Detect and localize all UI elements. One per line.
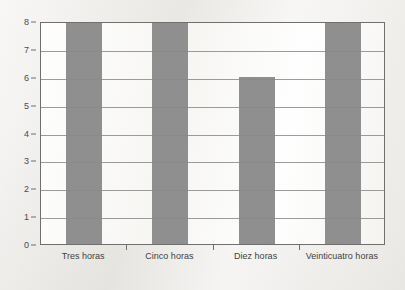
x-category-label: Cinco horas [126,251,212,262]
x-axis: Tres horasCinco horasDiez horasVeinticua… [40,249,385,289]
y-tick-mark [31,161,36,162]
bar [152,22,188,244]
y-tick-mark [31,105,36,106]
gridline [41,107,384,108]
y-axis: 012345678 [0,22,36,245]
gridline [41,162,384,163]
bar [66,22,102,244]
x-category-label: Diez horas [213,251,299,262]
y-tick-mark [31,22,36,23]
y-tick-label: 7 [24,45,29,54]
y-tick-label: 5 [24,101,29,110]
y-tick-mark [31,133,36,134]
y-tick-label: 2 [24,185,29,194]
y-tick-label: 4 [24,129,29,138]
x-tick-mark [213,245,214,250]
y-tick-mark [31,49,36,50]
gridline [41,218,384,219]
y-tick-mark [31,189,36,190]
y-tick-mark [31,217,36,218]
plot-area [40,22,385,245]
y-tick-label: 3 [24,157,29,166]
y-tick-mark [31,77,36,78]
x-tick-mark [299,245,300,250]
bars-group [41,23,384,244]
y-tick-label: 8 [24,18,29,27]
x-category-label: Veinticuatro horas [299,251,385,262]
bar [325,22,361,244]
gridline [41,135,384,136]
x-tick-mark [126,245,127,250]
gridline [41,190,384,191]
y-tick-label: 1 [24,213,29,222]
gridline [41,51,384,52]
gridline [41,79,384,80]
x-category-label: Tres horas [40,251,126,262]
y-tick-label: 6 [24,73,29,82]
y-tick-label: 0 [24,241,29,250]
bar-chart-figure: 012345678 Tres horasCinco horasDiez hora… [0,0,405,290]
y-tick-mark [31,245,36,246]
